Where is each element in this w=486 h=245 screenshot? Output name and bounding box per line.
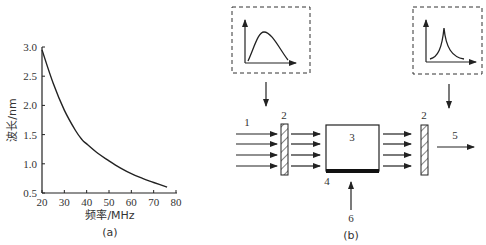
- caption-b: (b): [343, 229, 359, 242]
- x-tick-label: 20: [37, 196, 49, 208]
- arrows-out-crystal: [383, 134, 411, 166]
- label-5: 5: [452, 129, 458, 141]
- wavelength-curve: [42, 50, 167, 187]
- label-6: 6: [348, 212, 354, 224]
- y-tick-label: 2.0: [23, 99, 37, 111]
- diagram-b: 1 2 3 4 6 2 5 (b): [232, 7, 482, 242]
- y-tick-label: 0.5: [23, 187, 37, 199]
- label-2-right: 2: [421, 109, 427, 121]
- label-3: 3: [349, 131, 355, 143]
- x-tick-label: 50: [104, 196, 116, 208]
- polarizer-right: [421, 125, 428, 175]
- chart-a: 0.51.01.52.02.53.0 20304050607080 波长/nm …: [6, 41, 182, 239]
- y-tick-label: 1.0: [23, 158, 37, 170]
- x-tick-label: 60: [126, 196, 138, 208]
- incident-light-arrows: [236, 134, 277, 166]
- label-4: 4: [324, 175, 330, 187]
- y-tick-label: 3.0: [23, 41, 37, 53]
- x-tick-label: 80: [171, 196, 183, 208]
- polarizer-left: [281, 124, 288, 175]
- caption-a: (a): [102, 226, 117, 239]
- label-1: 1: [244, 116, 250, 128]
- inset-narrowband-spectrum: [413, 7, 482, 74]
- x-tick-label: 30: [59, 196, 71, 208]
- label-2-left: 2: [281, 109, 287, 121]
- arrows-into-crystal: [291, 134, 320, 166]
- transducer-bar: [326, 169, 379, 173]
- x-tick-label: 70: [148, 196, 160, 208]
- x-axis-label: 频率/MHz: [85, 208, 134, 222]
- y-axis-label: 波长/nm: [6, 98, 19, 141]
- y-tick-label: 1.5: [23, 129, 37, 141]
- inset-broadband-spectrum: [232, 7, 310, 73]
- figure-canvas: 0.51.01.52.02.53.0 20304050607080 波长/nm …: [0, 0, 486, 245]
- x-tick-label: 40: [81, 196, 93, 208]
- y-tick-label: 2.5: [23, 70, 37, 82]
